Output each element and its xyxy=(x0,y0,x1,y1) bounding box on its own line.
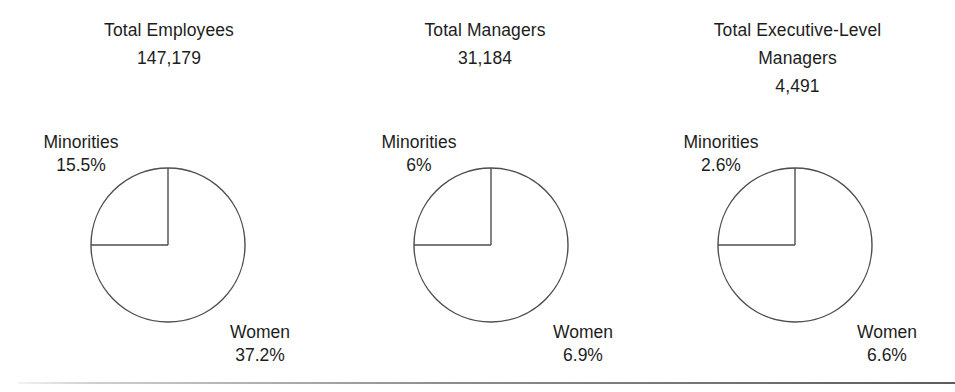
women-callout: Women 6.6% xyxy=(832,321,942,367)
panel-title: Total Executive-Level Managers 4,491 xyxy=(640,16,955,100)
panel-title: Total Managers 31,184 xyxy=(330,16,640,72)
women-callout: Women 37.2% xyxy=(205,321,315,367)
footer-divider xyxy=(18,382,955,384)
pie-chart-svg xyxy=(406,160,576,330)
chart-panel-total-employees: Total Employees 147,179 Minorities 15.5%… xyxy=(0,0,330,392)
pie-chart xyxy=(406,160,576,330)
pie-chart xyxy=(83,160,253,330)
pie-chart-figure: Total Employees 147,179 Minorities 15.5%… xyxy=(0,0,955,392)
chart-panel-total-executive-level-managers: Total Executive-Level Managers 4,491 Min… xyxy=(640,0,955,392)
chart-panel-total-managers: Total Managers 31,184 Minorities 6% Wome… xyxy=(330,0,640,392)
women-callout: Women 6.9% xyxy=(528,321,638,367)
panel-title: Total Employees 147,179 xyxy=(8,16,330,72)
pie-chart xyxy=(710,160,880,330)
pie-chart-svg xyxy=(710,160,880,330)
pie-chart-svg xyxy=(83,160,253,330)
